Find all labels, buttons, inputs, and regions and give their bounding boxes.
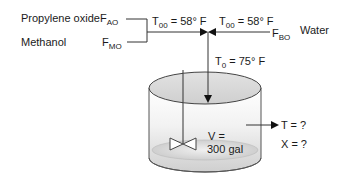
left-arrowhead-icon [200,28,208,36]
water-label: Water [300,24,329,36]
f-ao-label: FAO [100,12,118,24]
outlet-arrowhead-icon [271,121,279,129]
tank-top [149,72,261,104]
f-mo-label: FMO [102,36,122,48]
f-bo-label: FBO [272,27,290,39]
outlet-temperature: T = ? [281,119,306,131]
propylene-oxide-label: Propylene oxide [21,12,100,24]
volume-label: V = [208,130,225,142]
outlet-conversion: X = ? [281,138,307,150]
inlet-temperature: T0 = 75° F [215,55,265,67]
right-stream-temperature: T00 = 58° F [219,15,274,27]
left-stream-temperature: T00 = 58° F [152,15,207,27]
tank [149,72,261,172]
methanol-label: Methanol [21,36,66,48]
volume-value: 300 gal [207,143,243,155]
right-arrowhead-icon [208,28,216,36]
